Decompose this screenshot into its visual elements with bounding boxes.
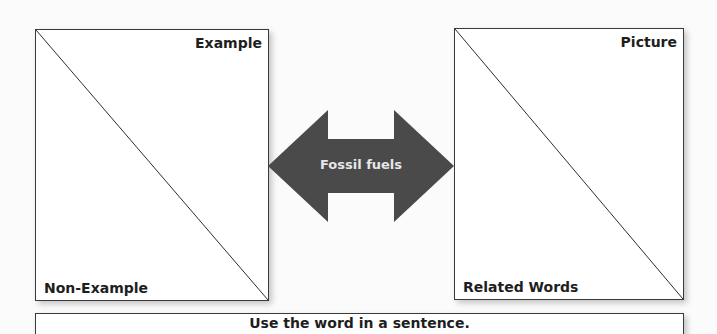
frayer-model-worksheet: Example Non-Example Fossil fuels Picture… bbox=[0, 0, 717, 334]
sentence-box: Use the word in a sentence. bbox=[35, 313, 684, 334]
diagonal-divider-left bbox=[36, 30, 268, 300]
non-example-label: Non-Example bbox=[44, 280, 148, 296]
example-label: Example bbox=[195, 35, 262, 51]
related-words-label: Related Words bbox=[463, 279, 578, 295]
sentence-prompt: Use the word in a sentence. bbox=[36, 315, 683, 331]
example-nonexample-box: Example Non-Example bbox=[35, 29, 269, 301]
picture-label: Picture bbox=[621, 34, 677, 50]
center-term: Fossil fuels bbox=[268, 157, 454, 172]
diagonal-divider-right bbox=[455, 29, 683, 299]
picture-related-words-box: Picture Related Words bbox=[454, 28, 684, 300]
